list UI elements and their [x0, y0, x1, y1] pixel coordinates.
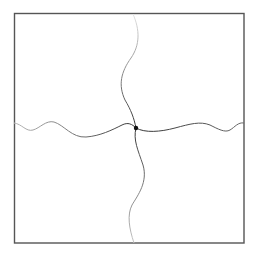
curve-right — [136, 123, 244, 132]
curve-left — [14, 122, 136, 137]
frame-border — [15, 14, 245, 244]
junction-point — [134, 126, 138, 130]
curve-top — [121, 14, 138, 128]
curve-bottom — [129, 128, 144, 243]
diagram-svg — [0, 0, 258, 255]
diagram-canvas — [0, 0, 258, 255]
